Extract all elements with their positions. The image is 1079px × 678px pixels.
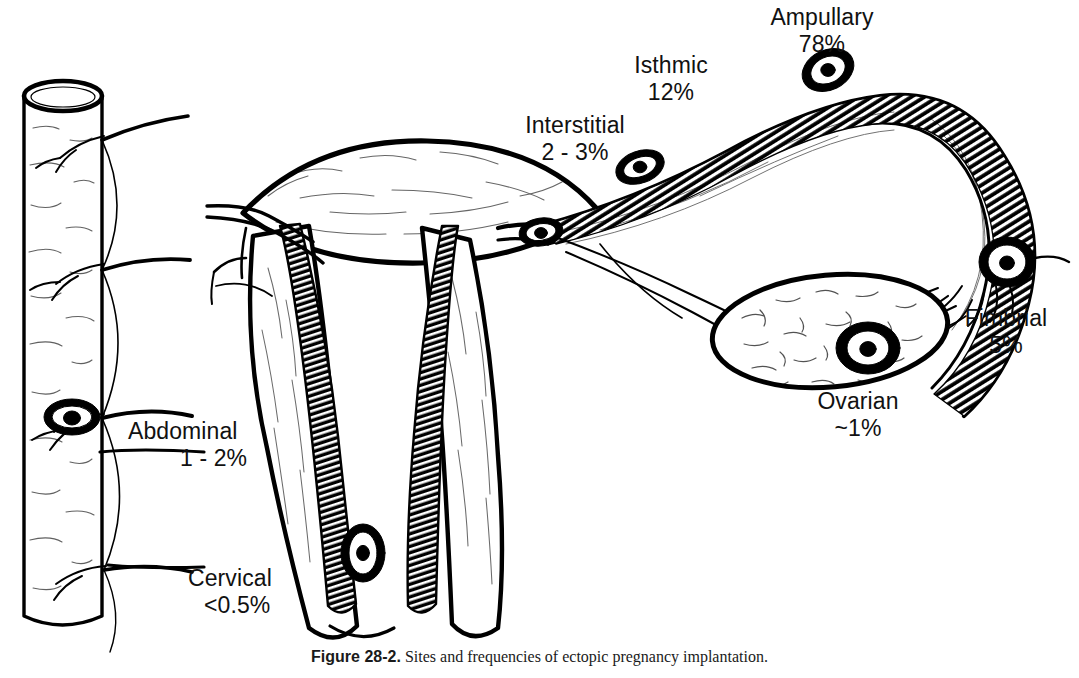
label-isthmic-name: Isthmic [601,52,741,79]
uterus [243,141,597,638]
label-abdominal-value: 1 - 2% [128,445,316,472]
figure-caption-text: Sites and frequencies of ectopic pregnan… [405,648,768,665]
label-ampullary-name: Ampullary [744,4,900,31]
label-fimbrial-name: Fimbrial [936,305,1076,332]
label-interstitial: Interstitial 2 - 3% [496,112,654,165]
label-isthmic-value: 12% [601,79,741,106]
implant-marker-ovarian [836,322,900,374]
label-cervical-name: Cervical [188,565,352,592]
figure-ectopic-pregnancy-sites: Ampullary 78% Isthmic 12% Interstitial 2… [0,0,1079,678]
label-interstitial-name: Interstitial [496,112,654,139]
anatomical-line-drawing [0,0,1079,678]
label-interstitial-value: 2 - 3% [496,139,654,166]
label-isthmic: Isthmic 12% [601,52,741,105]
label-ovarian-name: Ovarian [790,388,926,415]
label-ovarian-value: ~1% [790,415,926,442]
implant-marker-abdominal [44,399,100,435]
label-ovarian: Ovarian ~1% [790,388,926,441]
figure-caption: Figure 28-2. Sites and frequencies of ec… [0,648,1079,666]
label-fimbrial-value: 5% [936,332,1076,359]
figure-caption-number: Figure 28-2. [311,648,401,665]
label-abdominal: Abdominal 1 - 2% [128,418,316,471]
label-fimbrial: Fimbrial 5% [936,305,1076,358]
label-ampullary-value: 78% [744,31,900,58]
ovary [558,238,952,397]
label-abdominal-name: Abdominal [128,418,316,445]
label-cervical-value: <0.5% [188,592,352,619]
label-ampullary: Ampullary 78% [744,4,900,57]
label-cervical: Cervical <0.5% [188,565,352,618]
